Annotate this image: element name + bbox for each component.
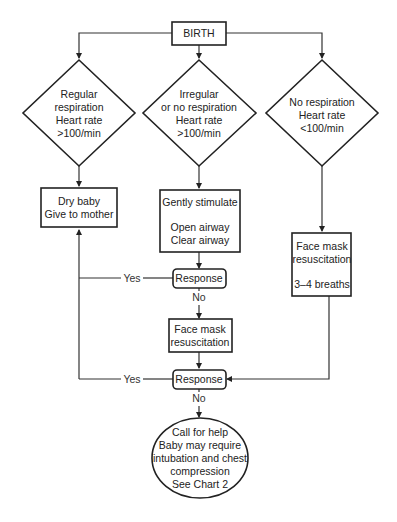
svg-text:Face mask: Face mask: [296, 240, 348, 252]
yes-label: Yes: [123, 373, 140, 385]
newborn-resuscitation-flowchart: BIRTH Regular respiration Heart rate >10…: [0, 0, 397, 522]
no-label: No: [192, 291, 206, 303]
decision-regular-respiration: Regular respiration Heart rate >100/min: [23, 60, 135, 166]
svg-text:BIRTH: BIRTH: [183, 27, 214, 39]
svg-text:Face mask: Face mask: [174, 323, 226, 335]
no-label: No: [192, 392, 206, 404]
action-face-mask-middle: Face mask resuscitation: [169, 319, 232, 352]
svg-text:Irregular: Irregular: [179, 88, 219, 100]
svg-text:>100/min: >100/min: [57, 127, 101, 139]
response-node-1: Response Yes No: [123, 269, 226, 303]
svg-text:No respiration: No respiration: [289, 96, 355, 108]
svg-text:Response: Response: [175, 272, 222, 284]
svg-text:>100/min: >100/min: [177, 127, 221, 139]
svg-text:Open airway: Open airway: [171, 221, 231, 233]
svg-text:Gently stimulate: Gently stimulate: [162, 196, 237, 208]
birth-node: BIRTH: [172, 22, 226, 45]
svg-text:resuscitation: resuscitation: [293, 253, 352, 265]
svg-text:Heart rate: Heart rate: [299, 109, 346, 121]
decision-no-respiration: No respiration Heart rate <100/min: [266, 60, 378, 166]
svg-text:Baby may require: Baby may require: [159, 439, 241, 451]
action-stimulate: Gently stimulate Open airway Clear airwa…: [160, 190, 240, 252]
svg-text:Heart rate: Heart rate: [56, 114, 103, 126]
action-dry-baby: Dry baby Give to mother: [41, 188, 117, 227]
svg-text:Dry baby: Dry baby: [58, 195, 101, 207]
svg-text:3–4 breaths: 3–4 breaths: [294, 278, 349, 290]
svg-text:intubation and chest: intubation and chest: [153, 452, 247, 464]
terminal-call-for-help: Call for help Baby may require intubatio…: [152, 418, 248, 498]
svg-text:Clear airway: Clear airway: [171, 234, 230, 246]
svg-text:Regular: Regular: [61, 88, 98, 100]
svg-text:compression: compression: [170, 465, 230, 477]
svg-text:<100/min: <100/min: [300, 122, 344, 134]
yes-label: Yes: [123, 272, 140, 284]
decision-irregular-respiration: Irregular or no respiration Heart rate >…: [143, 60, 256, 166]
svg-text:or no respiration: or no respiration: [161, 101, 237, 113]
svg-text:Heart rate: Heart rate: [176, 114, 223, 126]
svg-text:Call for help: Call for help: [172, 426, 228, 438]
svg-text:Give to mother: Give to mother: [45, 208, 114, 220]
action-face-mask-right: Face mask resuscitation 3–4 breaths: [292, 233, 352, 296]
svg-text:See Chart 2: See Chart 2: [172, 478, 228, 490]
svg-text:resuscitation: resuscitation: [171, 336, 230, 348]
svg-text:respiration: respiration: [54, 101, 103, 113]
response-node-2: Response Yes No: [123, 370, 226, 404]
svg-text:Response: Response: [175, 373, 222, 385]
